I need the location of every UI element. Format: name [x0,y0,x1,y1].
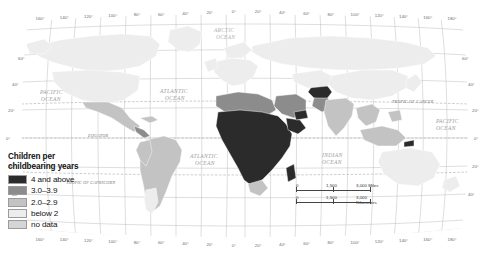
label-pacific-ocean-nw-line1: PACIFIC [39,89,63,95]
longitude-label-bottom-10: 40° [279,242,286,247]
legend-item[interactable]: 3.0–3.9 [8,186,112,195]
longitude-label-top-3: 100° [108,13,117,18]
longitude-label-top-13: 100° [351,12,360,17]
longitude-label-bottom-6: 40° [182,241,189,246]
country-yemen [294,110,308,120]
longitude-label-bottom-7: 20° [206,242,213,247]
label-atlantic-ocean-n-line2: OCEAN [165,95,185,101]
longitude-label-top-2: 120° [84,14,93,19]
legend-swatch [8,220,27,229]
longitude-label-bottom-1: 140° [60,237,69,242]
world-map-figure: ARCTIC OCEAN PACIFIC OCEAN ATLANTIC OCEA… [0,0,488,257]
longitude-label-bottom-13: 100° [351,240,360,245]
label-pacific-ocean-nw-line2: OCEAN [41,96,61,102]
longitude-label-top-6: 40° [182,11,189,16]
label-atlantic-ocean-s-line1: ATLANTIC [189,153,218,159]
legend-label: below 2 [31,209,58,218]
longitude-label-bottom-12: 80° [328,240,335,245]
label-indian-ocean-line1: INDIAN [321,152,342,158]
longitude-label-top-12: 80° [328,12,335,17]
longitude-label-bottom-5: 60° [158,240,165,245]
legend-label: no data [31,220,57,229]
legend-swatch [8,186,27,195]
latitude-label-right-2: 20° [472,108,479,113]
longitude-label-bottom-17: 180° [448,237,457,242]
longitude-label-bottom-14: 120° [375,239,384,244]
latitude-label-left-3: 0° [6,136,10,141]
legend-item[interactable]: 4 and above [8,175,112,184]
longitude-label-bottom-11: 60° [303,241,310,246]
label-atlantic-ocean-s-line2: OCEAN [195,160,215,166]
label-pacific-ocean-se-line1: PACIFIC [435,118,459,124]
legend-item[interactable]: 2.0–2.9 [8,198,112,207]
label-tropic-of-cancer: TROPIC OF CANCER [392,99,434,104]
longitude-label-bottom-16: 160° [423,237,432,242]
longitude-label-top-5: 60° [158,12,165,17]
scale-miles-tick-2: 3,000 Miles [356,183,378,188]
label-indian-ocean-line2: OCEAN [322,159,342,165]
latitude-label-right-0: 60° [462,56,469,61]
latitude-label-left-1: 40° [12,82,19,87]
latitude-label-right-1: 40° [468,82,475,87]
longitude-label-top-10: 40° [279,10,286,15]
legend-label: 2.0–2.9 [31,198,57,207]
latitude-label-left-0: 60° [18,56,25,61]
label-atlantic-ocean-n-line1: ATLANTIC [159,88,188,94]
latitude-label-right-4: 20° [472,164,479,169]
latitude-label-right-3: 0° [474,136,478,141]
scale-km-tick-1: 1,500 [326,195,337,200]
map-legend: Children per childbearing years 4 and ab… [8,152,112,229]
legend-item[interactable]: no data [8,220,112,229]
label-pacific-ocean-se-line2: OCEAN [436,125,456,131]
legend-swatch [8,198,27,207]
longitude-label-bottom-3: 100° [108,239,117,244]
legend-title-line1: Children per [8,152,112,162]
longitude-label-top-0: 160° [36,16,45,21]
latitude-label-left-2: 20° [8,108,15,113]
longitude-label-top-14: 120° [375,13,384,18]
longitude-label-top-4: 80° [134,12,141,17]
legend-title-line2: childbearing years [8,162,112,172]
scale-miles-tick-1: 1,500 [326,183,337,188]
longitude-label-bottom-15: 140° [399,238,408,243]
map-scale-bars: 0 1,500 3,000 Miles 0 1,500 3,000 Kilome… [296,186,388,207]
legend-swatch [8,209,27,218]
label-equator: EQUATOR [87,133,108,138]
longitude-label-top-8: 0° [232,9,236,14]
longitude-label-top-9: 20° [255,9,262,14]
longitude-label-top-7: 20° [206,10,213,15]
longitude-label-top-16: 160° [423,15,432,20]
longitude-label-bottom-4: 80° [134,240,141,245]
longitude-label-bottom-9: 20° [255,243,262,248]
scale-bar-kilometers: 0 1,500 3,000 Kilometers [296,198,388,207]
longitude-label-top-1: 140° [60,15,69,20]
longitude-label-bottom-8: 0° [232,243,236,248]
legend-label: 3.0–3.9 [31,186,57,195]
latitude-label-right-5: 40° [468,192,475,197]
legend-item[interactable]: below 2 [8,209,112,218]
label-arctic-ocean-line2: OCEAN [216,34,235,40]
label-arctic-ocean-line1: ARCTIC [213,27,234,33]
longitude-label-bottom-2: 120° [84,238,93,243]
legend-label: 4 and above [31,175,74,184]
longitude-label-top-15: 140° [399,14,408,19]
longitude-label-top-11: 60° [303,11,310,16]
legend-rows: 4 and above3.0–3.92.0–2.9below 2no data [8,175,112,230]
legend-swatch [8,175,27,184]
longitude-label-bottom-0: 160° [36,237,45,242]
longitude-label-top-17: 180° [448,16,457,21]
